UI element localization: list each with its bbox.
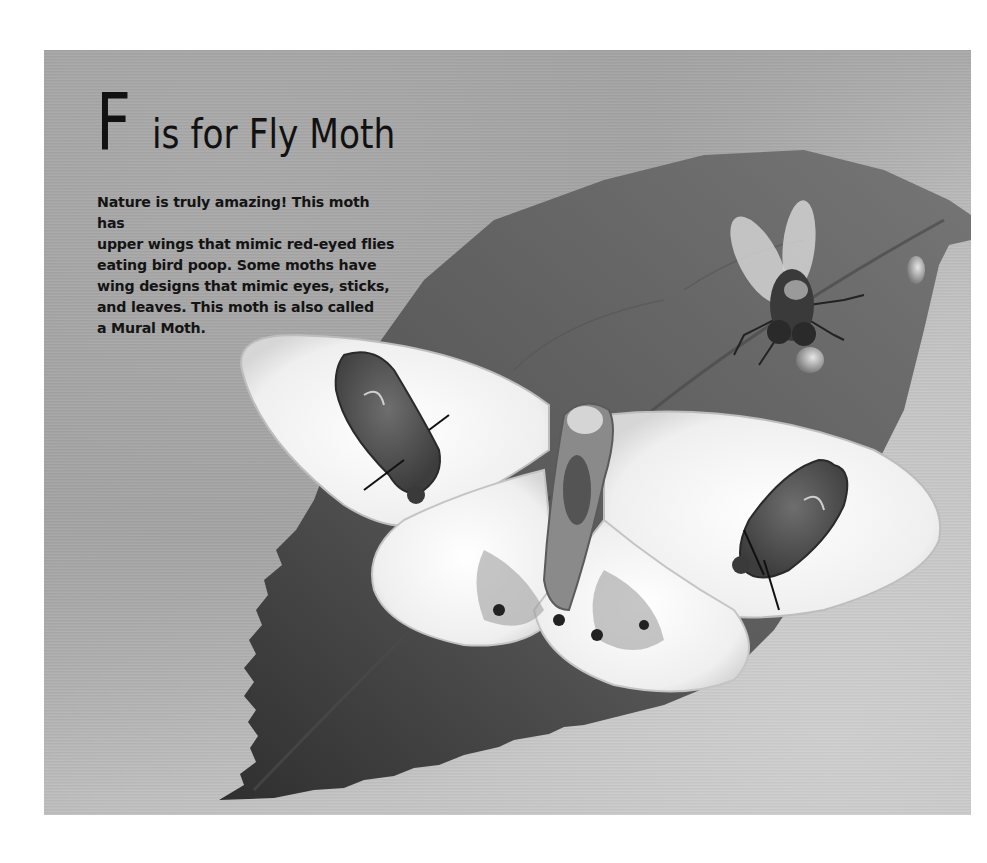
body-paragraph: Nature is truly amazing! This moth has u…	[97, 192, 397, 339]
title-text: is for Fly Moth	[152, 114, 395, 158]
page-title: F is for Fly Moth	[96, 86, 435, 158]
body-line: upper wings that mimic red-eyed flies	[97, 236, 394, 252]
illustration-artwork	[44, 50, 971, 815]
body-line: eating bird poop. Some moths have	[97, 257, 376, 273]
body-line: wing designs that mimic eyes, sticks,	[97, 278, 389, 294]
water-droplet	[907, 256, 925, 284]
title-initial-letter: F	[96, 86, 130, 158]
body-line: a Mural Moth.	[97, 320, 206, 336]
water-droplet	[796, 347, 824, 373]
body-line: and leaves. This moth is also called	[97, 299, 374, 315]
body-line: Nature is truly amazing! This moth has	[97, 194, 369, 231]
illustration-panel: F is for Fly Moth Nature is truly amazin…	[44, 50, 971, 815]
